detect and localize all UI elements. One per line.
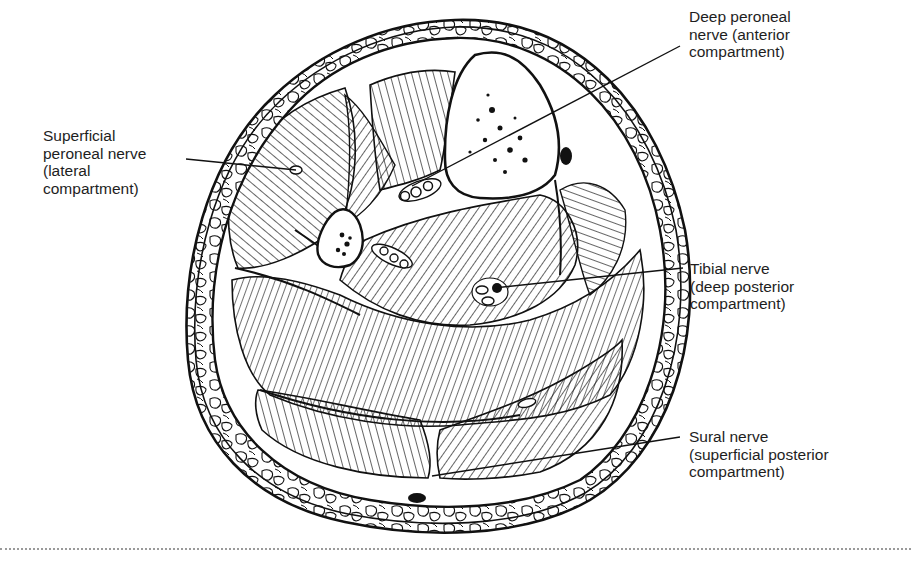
label-line: (deep posterior <box>690 278 794 296</box>
label-line: nerve (anterior <box>689 26 791 44</box>
label-line: (lateral <box>43 162 146 180</box>
small-saphenous-vein <box>408 493 426 503</box>
label-line: Superficial <box>43 127 146 145</box>
label-deep-peroneal-nerve: Deep peroneal nerve (anterior compartmen… <box>689 8 791 61</box>
label-superficial-peroneal-nerve: Superficial peroneal nerve (lateral comp… <box>43 127 146 197</box>
label-line: compartment) <box>689 43 791 61</box>
label-line: (superficial posterior <box>689 446 829 464</box>
label-line: compartment) <box>43 180 146 198</box>
label-line: peroneal nerve <box>43 145 146 163</box>
label-line: Sural nerve <box>689 428 829 446</box>
label-line: compartment) <box>690 295 794 313</box>
label-line: Tibial nerve <box>690 260 794 278</box>
label-line: Deep peroneal <box>689 8 791 26</box>
dotted-divider <box>0 548 911 550</box>
label-sural-nerve: Sural nerve (superficial posterior compa… <box>689 428 829 481</box>
posterior-tibial-bundle <box>472 278 508 306</box>
great-saphenous-vein <box>560 147 572 165</box>
label-line: compartment) <box>689 463 829 481</box>
label-tibial-nerve: Tibial nerve (deep posterior compartment… <box>690 260 794 313</box>
